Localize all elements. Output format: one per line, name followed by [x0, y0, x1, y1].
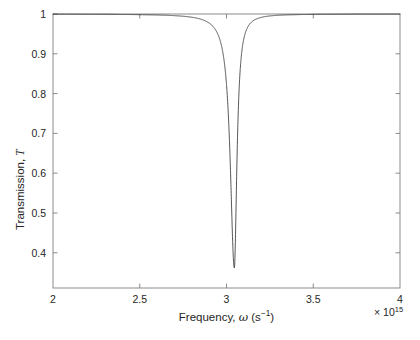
x-tick-label: 4 — [397, 293, 403, 305]
y-tick-label: 0.7 — [0, 127, 46, 139]
y-tick-label: 1 — [0, 8, 46, 20]
x-tick-label: 3 — [224, 293, 230, 305]
y-tick-label: 0.8 — [0, 88, 46, 100]
x-tick-label: 2 — [50, 293, 56, 305]
x-tick-label: 3.5 — [306, 293, 321, 305]
x-tick-label: 2.5 — [132, 293, 147, 305]
plot-border — [53, 14, 400, 288]
y-tick-label: 0.9 — [0, 48, 46, 60]
axes-box — [53, 14, 400, 288]
x-axis-title: Frequency, ω (s−1) — [53, 310, 400, 324]
x-axis-exponent-label: × 1015 — [374, 306, 403, 318]
y-tick-label: 0.4 — [0, 247, 46, 259]
transmission-plot — [0, 0, 420, 340]
figure-canvas: 0.40.50.60.70.80.91 22.533.54 Frequency,… — [0, 0, 420, 340]
y-axis-title: Transmission, T — [14, 149, 26, 230]
